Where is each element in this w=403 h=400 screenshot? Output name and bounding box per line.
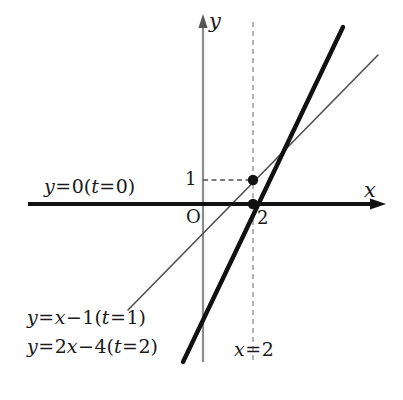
equation-label-t2: y=2x−4(t=2) — [27, 337, 158, 356]
x-tick-label-2: 2 — [257, 209, 268, 227]
equation-label-t0: y=0(t=0) — [44, 177, 135, 196]
y-tick-label-1: 1 — [185, 170, 196, 188]
line-y-equals-2x-minus-4 — [183, 27, 343, 362]
vertical-line-label: x=2 — [234, 340, 274, 359]
equation-label-t1: y=x−1(t=1) — [27, 308, 146, 327]
y-axis-arrowhead-icon — [198, 14, 207, 28]
y-axis-label: y — [209, 11, 221, 32]
x-axis-label: x — [364, 180, 376, 201]
point-marker-2-1 — [248, 175, 258, 185]
origin-label: O — [186, 208, 201, 226]
math-diagram: y x O 1 2 y=0(t=0) y=x−1(t=1) y=2x−4(t=2… — [0, 0, 403, 400]
